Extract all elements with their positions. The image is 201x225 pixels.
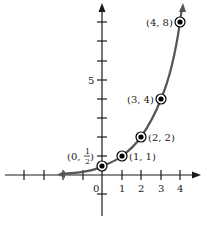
exponential-curve bbox=[60, 8, 182, 174]
point-label-4: (4, 8) bbox=[146, 17, 173, 28]
y-axis-arrow-icon bbox=[99, 3, 106, 12]
point-label-1: (1, 1) bbox=[129, 151, 156, 162]
x-tick-label-4: 4 bbox=[177, 183, 183, 194]
y-tick-label-5: 5 bbox=[88, 75, 94, 86]
data-point-0 bbox=[97, 161, 107, 171]
point-label-0-suffix: ) bbox=[90, 151, 94, 162]
x-tick-label-3: 3 bbox=[158, 183, 164, 194]
curve-top-arrow-icon bbox=[179, 3, 186, 12]
point-label-0-prefix: (0, bbox=[67, 151, 80, 162]
point-label-3: (3, 4) bbox=[127, 94, 154, 105]
data-point-3 bbox=[156, 94, 166, 104]
x-axis-arrow-icon bbox=[192, 172, 201, 179]
point-label-2: (2, 2) bbox=[148, 132, 175, 143]
origin-label: 0 bbox=[93, 183, 99, 194]
data-point-1 bbox=[117, 151, 127, 161]
x-tick-label-2: 2 bbox=[138, 183, 144, 194]
data-point-2 bbox=[136, 132, 146, 142]
chart: 0 1 2 3 4 5 (0, 1 2 ) (1, 1) (2, 2) (3, … bbox=[0, 0, 201, 225]
x-tick-label-1: 1 bbox=[119, 183, 125, 194]
data-point-4 bbox=[175, 17, 185, 27]
curve-left-arrow-icon bbox=[57, 171, 65, 178]
